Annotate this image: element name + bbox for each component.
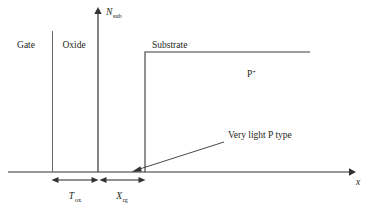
doping-type-label: P+: [247, 68, 256, 80]
region-label-gate: Gate: [17, 40, 35, 50]
y-axis-arrowhead: [94, 7, 101, 14]
xrg-dimension-arrowhead-left: [100, 177, 107, 183]
tox-label: Tox: [69, 191, 82, 203]
xrg-label-subscript: rg: [123, 196, 129, 203]
annotation-label: Very light P type: [228, 130, 292, 140]
xrg-dimension-arrowhead-right: [139, 177, 146, 183]
annotation-arrowhead: [132, 166, 142, 172]
x-axis-label: x: [355, 177, 361, 187]
annotation-leader-line: [138, 142, 224, 170]
tox-label-subscript: ox: [75, 196, 82, 203]
y-axis-label-subscript: sub: [113, 12, 122, 19]
region-label-substrate: Substrate: [152, 40, 187, 50]
doping-profile-diagram: x Nsub Gate Oxide Substrate P+ Very ligh…: [0, 0, 372, 216]
y-axis-label: Nsub: [105, 7, 122, 19]
xrg-label: Xrg: [115, 191, 128, 203]
region-label-oxide: Oxide: [62, 40, 85, 50]
tox-dimension-arrowhead-left: [52, 177, 59, 183]
x-axis-arrowhead: [349, 168, 356, 176]
y-axis-label-variable: N: [105, 7, 113, 17]
tox-dimension-arrowhead-right: [92, 177, 99, 183]
doping-type-superscript: +: [252, 68, 256, 75]
diagram-canvas: x Nsub Gate Oxide Substrate P+ Very ligh…: [0, 0, 372, 216]
doping-profile-step-curve: [145, 52, 310, 172]
